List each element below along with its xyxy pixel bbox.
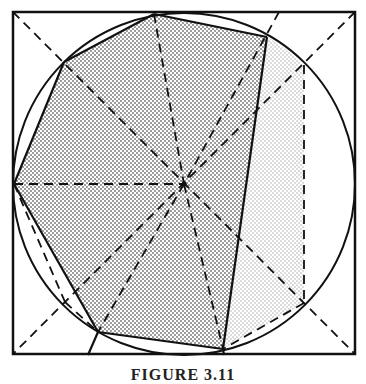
tangent-extension-right <box>223 349 224 355</box>
center-point <box>182 182 187 187</box>
tangent-extension-bottom <box>88 332 98 355</box>
figure-caption: FIGURE 3.11 <box>0 366 366 384</box>
